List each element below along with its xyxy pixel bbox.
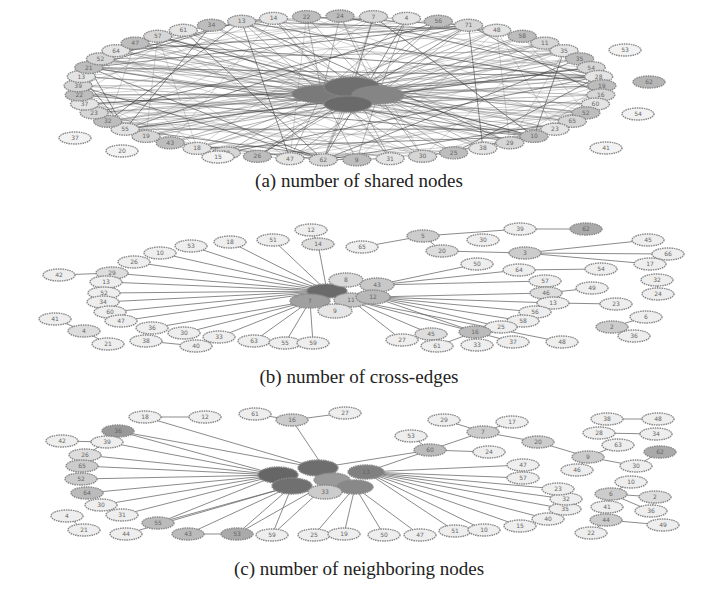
graph-node: 57	[144, 30, 172, 42]
graph-node: 63	[602, 439, 634, 451]
graph-node: 43	[172, 528, 204, 540]
graph-node: 42	[43, 269, 75, 281]
node-label: 52	[97, 55, 105, 62]
graph-node: 6	[595, 488, 627, 500]
node-label: 16	[288, 416, 296, 423]
node-label: 34	[208, 21, 216, 28]
node-label: 56	[531, 308, 539, 315]
graph-node: 49	[576, 282, 608, 294]
node-label: 50	[380, 531, 388, 538]
node-label: 13	[78, 73, 86, 80]
graph-node: 25	[440, 147, 468, 159]
graph-node: 30	[467, 234, 499, 246]
node-label: 20	[534, 438, 542, 445]
graph-node: 36	[635, 505, 667, 517]
node-label: 62	[645, 78, 653, 85]
node-label: 10	[627, 478, 635, 485]
graph-node: 17	[496, 416, 528, 428]
node-label: 15	[516, 522, 524, 529]
graph-node: 10	[468, 524, 500, 536]
node-label: 9	[355, 156, 359, 163]
graph-neighboring-nodes: 1812611627364239266552643031421445543535…	[0, 398, 718, 558]
graph-node: 33	[203, 331, 235, 343]
graph-node: 54	[622, 108, 654, 120]
node-label: 64	[83, 489, 91, 496]
node-label: 34	[99, 298, 107, 305]
node-label: 59	[268, 531, 276, 538]
node-label: 32	[653, 276, 661, 283]
graph-node: 15	[202, 151, 234, 163]
panel-b: 1214511853102629421352346047414213630384…	[0, 205, 718, 365]
graph-node: 53	[221, 528, 253, 540]
node-label: 28	[595, 73, 603, 80]
node-label: 18	[226, 238, 234, 245]
caption-a: (a) number of shared nodes	[0, 170, 718, 192]
graph-shared-nodes: 2474567148581135355428191660526523102938…	[0, 0, 718, 168]
graph-node: 59	[297, 337, 329, 349]
graph-node: 26	[118, 256, 150, 268]
graph-node: 16	[276, 414, 308, 426]
graph-node: 61	[239, 408, 271, 420]
graph-node: 63	[238, 335, 270, 347]
node-label: 53	[621, 46, 629, 53]
graph-node: 18	[214, 236, 246, 248]
node-label: 61	[251, 410, 259, 417]
node-label: 33	[215, 333, 223, 340]
graph-node: 62	[633, 76, 665, 88]
node-label: 15	[214, 153, 222, 160]
graph-node: 55	[269, 337, 301, 349]
node-label: 19	[340, 530, 348, 537]
node-label: 7	[308, 297, 312, 304]
node-label: 60	[106, 308, 114, 315]
graph-node: 4	[51, 510, 83, 522]
graph-node: 26	[243, 150, 271, 162]
graph-node	[324, 96, 372, 112]
node-label: 7	[372, 13, 376, 20]
node-label: 19	[142, 132, 150, 139]
graph-node: 21	[68, 524, 100, 536]
graph-node: 13	[348, 465, 384, 479]
graph-node: 49	[647, 519, 679, 531]
node-label: 38	[479, 144, 487, 151]
graph-node: 24	[642, 288, 674, 300]
node-label: 63	[614, 441, 622, 448]
graph-node: 41	[590, 142, 622, 154]
graph-node: 30	[168, 327, 200, 339]
graph-node: 10	[615, 476, 647, 488]
node-label: 57	[154, 32, 162, 39]
graph-node: 4	[68, 325, 100, 337]
graph-node: 5	[407, 230, 439, 242]
node-label: 29	[506, 139, 514, 146]
node-label: 47	[519, 461, 527, 468]
node-label: 52	[77, 475, 85, 482]
node-label: 25	[497, 323, 505, 330]
graph-node: 24	[326, 10, 354, 22]
node-label: 17	[508, 418, 516, 425]
graph-node: 9	[572, 451, 604, 463]
node-label: 47	[117, 317, 125, 324]
node-label: 54	[597, 265, 605, 272]
graph-node: 47	[276, 153, 304, 165]
graph-node	[272, 478, 312, 494]
node-label: 59	[309, 339, 317, 346]
node-label: 37	[71, 134, 79, 141]
graph-node: 7	[360, 11, 388, 23]
graph-node: 51	[257, 234, 289, 246]
graph-node: 54	[585, 263, 617, 275]
graph-node: 13	[90, 276, 122, 288]
graph-node: 2	[596, 321, 628, 333]
node-label: 41	[603, 503, 611, 510]
node-label: 16	[597, 91, 605, 98]
graph-node: 8	[329, 273, 363, 287]
node-label: 64	[515, 266, 523, 273]
node-label: 26	[130, 258, 138, 265]
graph-node: 55	[142, 517, 174, 529]
node-label: 26	[81, 451, 89, 458]
graph-node: 36	[102, 425, 134, 437]
node-label: 18	[193, 144, 201, 151]
node-label: 58	[518, 32, 526, 39]
node-label: 52	[100, 289, 108, 296]
graph-node: 12	[295, 224, 327, 236]
graph-node: 4	[392, 12, 420, 24]
node-label: 20	[118, 147, 126, 154]
